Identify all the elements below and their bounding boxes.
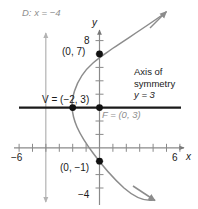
parabola-figure: D: x = −4 y x 8 −4 −6 6 (0, 7) V = (−2, …	[0, 0, 198, 209]
point-0-neg1	[96, 158, 103, 165]
point-0-7	[96, 51, 103, 58]
axis-of-symmetry-note: Axis of symmetry y = 3	[134, 66, 175, 101]
y-tick-label-neg4: −4	[78, 190, 89, 200]
focus-label: F = (0, 3)	[102, 110, 141, 120]
directrix-label: D: x = −4	[22, 8, 61, 18]
point-label-0-neg1: (0, −1)	[60, 163, 89, 173]
y-axis-letter: y	[92, 18, 97, 28]
point-vertex	[69, 104, 76, 111]
axis-note-line-2: symmetry	[134, 78, 175, 90]
x-tick-label-6: 6	[172, 153, 178, 163]
vertex-label: V = (−2, 3)	[42, 95, 89, 105]
point-label-0-7: (0, 7)	[62, 47, 85, 57]
axis-note-line-1: Axis of	[134, 66, 175, 78]
axis-note-line-3: y = 3	[134, 89, 175, 101]
graph-canvas	[0, 0, 198, 209]
x-tick-label-neg6: −6	[11, 153, 22, 163]
x-axis-letter: x	[186, 152, 191, 162]
y-tick-label-8: 8	[84, 36, 90, 46]
